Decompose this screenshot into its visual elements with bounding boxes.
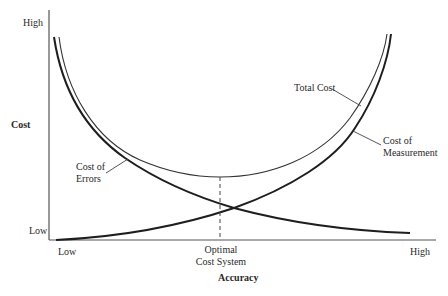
total-cost-label: Total Cost bbox=[294, 82, 335, 94]
x-tick-optimal: Optimal Cost System bbox=[185, 244, 257, 268]
x-axis-label: Accuracy bbox=[218, 272, 259, 284]
total-cost-curve bbox=[59, 34, 387, 177]
measurement-line1: Cost of bbox=[383, 135, 437, 147]
y-tick-low: Low bbox=[29, 225, 47, 237]
optimal-line2: Cost System bbox=[185, 256, 257, 268]
measurement-line2: Measurement bbox=[383, 147, 437, 159]
total-cost-leader bbox=[332, 89, 361, 106]
x-tick-low: Low bbox=[58, 246, 76, 258]
errors-line2: Errors bbox=[76, 173, 105, 185]
errors-label: Cost of Errors bbox=[76, 161, 105, 185]
y-tick-high: High bbox=[23, 17, 43, 29]
optimal-line1: Optimal bbox=[185, 244, 257, 256]
errors-leader bbox=[106, 159, 128, 173]
measurement-leader bbox=[353, 131, 381, 145]
errors-line1: Cost of bbox=[76, 161, 105, 173]
x-tick-high: High bbox=[410, 246, 430, 258]
measurement-label: Cost of Measurement bbox=[383, 135, 437, 159]
y-axis-label: Cost bbox=[11, 119, 30, 131]
cost-of-errors-curve bbox=[54, 37, 410, 233]
